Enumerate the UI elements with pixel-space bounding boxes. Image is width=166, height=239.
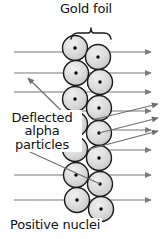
nucleus-9 bbox=[97, 156, 100, 159]
nucleus-12 bbox=[75, 198, 78, 201]
label-deflected-line-2: alpha bbox=[3, 124, 81, 137]
nucleus-5 bbox=[97, 106, 100, 109]
nucleus-3 bbox=[98, 80, 101, 83]
label-deflected-line-1: Deflected bbox=[3, 111, 81, 124]
nucleus-0 bbox=[73, 46, 76, 49]
diagram-canvas: Gold foil Deflected alpha particles Posi… bbox=[0, 0, 166, 239]
label-deflected-line-3: particles bbox=[3, 138, 81, 151]
nucleus-2 bbox=[74, 71, 77, 74]
nucleus-13 bbox=[99, 207, 102, 210]
label-positive-nuclei: Positive nuclei bbox=[8, 218, 102, 231]
nucleus-4 bbox=[73, 97, 76, 100]
label-deflected-alpha-particles: Deflected alpha particles bbox=[2, 110, 82, 152]
label-gold-foil: Gold foil bbox=[58, 2, 114, 15]
nucleus-1 bbox=[96, 55, 99, 58]
